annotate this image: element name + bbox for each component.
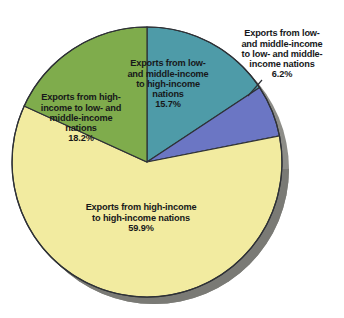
slice-label-text: Exports from low- and middle-income to h… (127, 58, 208, 99)
slice-label-high-to-lmi: Exports from high- income to low- and mi… (26, 82, 136, 154)
slice-label-text: Exports from high-income to high-income … (86, 202, 197, 222)
slice-value-label: 59.9% (62, 223, 220, 233)
slice-label-lmi-to-lmi: Exports from low- and middle-income to l… (222, 18, 342, 90)
slice-value-label: 6.2% (222, 69, 342, 79)
pie-chart: Exports from low- and middle-income to h… (0, 0, 344, 318)
slice-label-text: Exports from high- income to low- and mi… (41, 92, 122, 133)
slice-value-label: 18.2% (26, 133, 136, 143)
slice-label-text: Exports from low- and middle-income to l… (241, 28, 322, 69)
slice-label-high-to-high: Exports from high-income to high-income … (62, 192, 220, 243)
